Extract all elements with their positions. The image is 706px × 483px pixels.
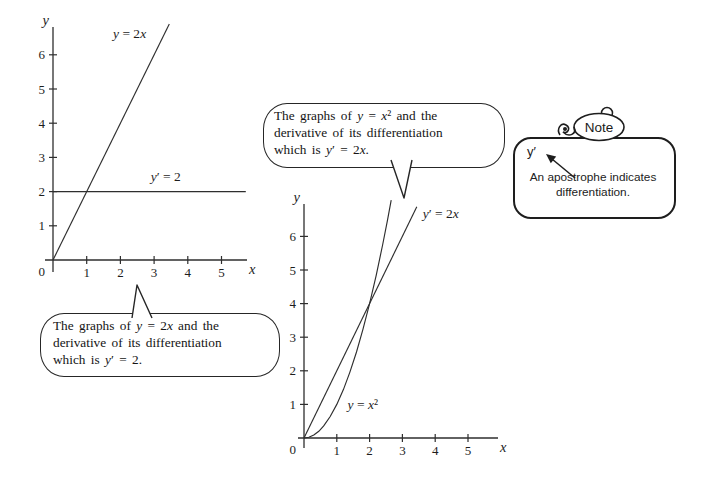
callout-left-tail	[125, 278, 165, 320]
callout-text-line: derivative of its differentiation	[53, 334, 273, 351]
x-tick-label: 2	[117, 265, 124, 280]
y-tick-label: 6	[290, 229, 297, 244]
scribble-dot-icon	[563, 127, 567, 131]
note-symbol: y′	[527, 144, 536, 159]
curve-label-y-equals-x-squared: y = x²	[346, 397, 378, 412]
origin-label: 0	[39, 264, 46, 279]
y-tick-label: 1	[39, 218, 46, 233]
derivative-figure: 123451234560yxy = 2xy′ = 2123451234560yx…	[0, 0, 706, 483]
y-tick-label: 4	[290, 296, 297, 311]
x-tick-label: 3	[399, 443, 406, 458]
note-caption-line-1: An apostrophe indicates	[518, 170, 668, 185]
y-tick-label: 2	[290, 363, 297, 378]
origin-label: 0	[290, 442, 297, 457]
curve-y-equals-2x	[53, 24, 169, 260]
curve-label-y-prime-equals-2: y′ = 2	[149, 169, 181, 184]
curve-label-y-equals-2x: y = 2x	[111, 26, 146, 41]
x-tick-label: 1	[83, 265, 90, 280]
graphs-canvas: 123451234560yxy = 2xy′ = 2123451234560yx…	[0, 0, 706, 483]
y-tick-label: 3	[290, 330, 297, 345]
y-tick-label: 3	[39, 150, 46, 165]
note-badge: Note	[548, 103, 640, 147]
note-caption-line-2: differentiation.	[518, 185, 668, 200]
callout-text-line: The graphs of y = x² and the	[274, 107, 498, 124]
x-tick-label: 5	[465, 443, 472, 458]
callout-left: The graphs of y = 2x and thederivative o…	[40, 313, 280, 377]
x-tick-label: 2	[366, 443, 373, 458]
x-tick-label: 5	[218, 265, 225, 280]
right-graph: 123451234560yxy = x²y′ = 2x	[290, 189, 508, 458]
y-tick-label: 5	[290, 263, 297, 278]
y-axis-label: y	[292, 189, 301, 205]
x-tick-label: 4	[185, 265, 192, 280]
note-title: Note	[585, 120, 614, 135]
y-tick-label: 1	[290, 397, 297, 412]
x-axis-label: x	[499, 439, 507, 455]
callout-text-line: which is y′ = 2.	[53, 351, 273, 368]
y-axis-label: y	[41, 12, 50, 28]
curve-label-y-prime-equals-2x: y′ = 2x	[421, 206, 459, 221]
y-tick-label: 4	[39, 116, 46, 131]
x-axis-label: x	[248, 261, 256, 277]
left-graph: 123451234560yxy = 2xy′ = 2	[39, 12, 257, 280]
callout-text-line: derivative of its differentiation	[274, 124, 498, 141]
y-tick-label: 2	[39, 184, 46, 199]
note-caption: An apostrophe indicates differentiation.	[518, 170, 668, 200]
callout-middle-tail	[385, 158, 419, 204]
x-tick-label: 1	[334, 443, 341, 458]
callout-middle: The graphs of y = x² and thederivative o…	[263, 103, 505, 168]
y-tick-label: 6	[39, 47, 46, 62]
callout-text-line: which is y′ = 2x.	[274, 141, 498, 158]
x-tick-label: 4	[432, 443, 439, 458]
y-tick-label: 5	[39, 82, 46, 97]
